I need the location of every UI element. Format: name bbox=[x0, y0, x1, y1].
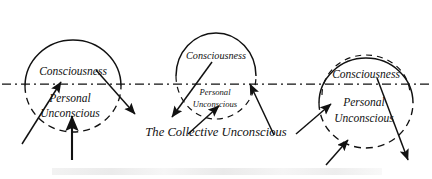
personal-label-middle: Personal bbox=[198, 87, 231, 97]
personal-unconscious-arc-right bbox=[319, 103, 413, 148]
personal-label-right: Personal bbox=[342, 96, 385, 108]
collective-unconscious-label: The Collective Unconscious bbox=[145, 125, 286, 139]
arrow-right-inbound-lower bbox=[326, 140, 348, 165]
jung-psyche-diagram: Consciousness Personal Unconscious Consc… bbox=[0, 0, 432, 179]
unconscious-label-middle: Unconscious bbox=[193, 99, 238, 109]
unconscious-label-left: Unconscious bbox=[40, 107, 100, 119]
consciousness-label-left: Consciousness bbox=[39, 65, 107, 77]
arrow-right-inbound-upper bbox=[296, 104, 331, 134]
personal-unconscious-arc-middle bbox=[176, 76, 256, 119]
personal-label-left: Personal bbox=[48, 92, 91, 104]
consciousness-label-right: Consciousness bbox=[332, 68, 400, 80]
diagram-canvas: Consciousness Personal Unconscious Consc… bbox=[0, 0, 432, 179]
consciousness-label-middle: Consciousness bbox=[186, 50, 246, 61]
consciousness-arc-left bbox=[25, 40, 121, 86]
unconscious-label-right: Unconscious bbox=[334, 112, 394, 124]
